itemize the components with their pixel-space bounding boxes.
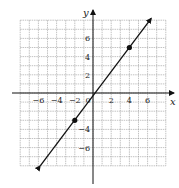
svg-text:4: 4 bbox=[127, 96, 132, 105]
x-axis-label: x bbox=[170, 96, 176, 107]
svg-text:6: 6 bbox=[145, 96, 150, 105]
svg-text:4: 4 bbox=[85, 53, 90, 62]
y-axis-label: y bbox=[82, 7, 89, 18]
svg-text:2: 2 bbox=[109, 96, 114, 105]
svg-text:−4: −4 bbox=[78, 125, 90, 134]
svg-text:2: 2 bbox=[85, 71, 90, 80]
svg-text:−2: −2 bbox=[69, 96, 81, 105]
svg-text:−4: −4 bbox=[51, 96, 63, 105]
coordinate-plane: −6−4−20246642−4−6 x y bbox=[0, 0, 179, 188]
svg-text:6: 6 bbox=[85, 34, 90, 43]
svg-text:−6: −6 bbox=[78, 144, 90, 153]
svg-text:−6: −6 bbox=[33, 96, 45, 105]
